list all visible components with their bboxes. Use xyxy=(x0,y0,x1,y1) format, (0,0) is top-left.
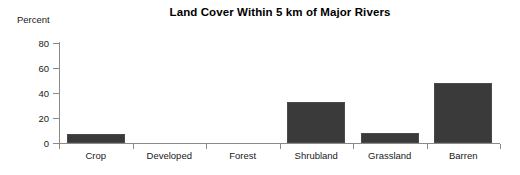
x-axis-category-label: Developed xyxy=(147,150,192,161)
plot-area xyxy=(59,43,500,143)
x-axis-tick xyxy=(206,144,207,149)
x-axis-tick xyxy=(427,144,428,149)
x-axis-category-label: Barren xyxy=(449,150,478,161)
y-axis-tick-label-wrap: 80 xyxy=(9,43,49,44)
x-axis-tick xyxy=(353,144,354,149)
x-axis-tick xyxy=(59,144,60,149)
y-axis-unit-label: Percent xyxy=(17,14,50,25)
x-axis-category-label: Shrubland xyxy=(295,150,338,161)
x-axis-category-label: Crop xyxy=(85,150,106,161)
x-axis-category-label: Forest xyxy=(229,150,256,161)
x-axis-tick xyxy=(280,144,281,149)
bar xyxy=(434,83,492,143)
bar xyxy=(287,102,345,143)
bar xyxy=(361,133,419,143)
y-axis-tick-label-wrap: 20 xyxy=(9,118,49,119)
x-axis-tick xyxy=(133,144,134,149)
x-axis-category-label: Grassland xyxy=(368,150,411,161)
y-axis-tick-label-wrap: 40 xyxy=(9,93,49,94)
x-axis-tick xyxy=(500,144,501,149)
y-axis-tick-label: 20 xyxy=(9,113,49,124)
bar-chart: Land Cover Within 5 km of Major Rivers P… xyxy=(0,0,520,175)
bar xyxy=(67,134,125,143)
y-axis-tick-label: 40 xyxy=(9,88,49,99)
y-axis-tick-label: 60 xyxy=(9,63,49,74)
y-axis-tick-label: 80 xyxy=(9,38,49,49)
y-axis-tick-label-wrap: 0 xyxy=(9,143,49,144)
y-axis-tick-label: 0 xyxy=(9,138,49,149)
y-axis-tick-label-wrap: 60 xyxy=(9,68,49,69)
chart-title: Land Cover Within 5 km of Major Rivers xyxy=(60,6,500,18)
